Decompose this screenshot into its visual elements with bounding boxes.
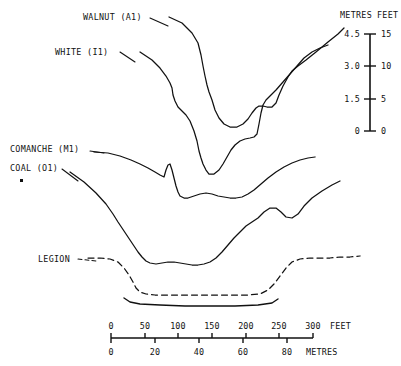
vertical-scale-feet-label-1: 0 (381, 126, 386, 136)
leader-line-walnut (150, 18, 168, 26)
feet-label-100: 100 (170, 321, 186, 331)
metres-unit-label: METRES (306, 347, 337, 357)
feet-label-150: 150 (204, 321, 220, 331)
trench-floor-outline (124, 298, 278, 306)
horizon-line-legion (88, 256, 360, 295)
metres-label-40: 40 (194, 347, 204, 357)
metres-label-80: 80 (282, 347, 292, 357)
cross-section-canvas: WALNUT (A1) WHITE (I1) COMANCHE (M1) COA… (0, 0, 401, 366)
feet-label-50: 50 (140, 321, 150, 331)
cross-section-figure: WALNUT (A1) WHITE (I1) COMANCHE (M1) COA… (0, 0, 401, 366)
feet-label-0: 0 (108, 321, 113, 331)
metres-label-20: 20 (150, 347, 160, 357)
vertical-scale-metres-label-2: 1.5 (344, 94, 360, 104)
coal-marker-dot (20, 179, 23, 182)
leader-line-coal (62, 169, 78, 181)
horizon-label-comanche: COMANCHE (M1) (10, 144, 79, 154)
horizon-label-legion: LEGION (38, 254, 70, 264)
horizon-line-walnut (169, 17, 344, 127)
feet-label-250: 250 (271, 321, 287, 331)
leader-line-white (120, 52, 135, 62)
vertical-scale-feet-label-2: 5 (381, 94, 386, 104)
vertical-scale-feet-label-4: 15 (381, 29, 391, 39)
vertical-scale-feet-label-3: 10 (381, 61, 391, 71)
vertical-scale-feet-header: FEET (377, 10, 398, 20)
horizon-label-white: WHITE (I1) (55, 47, 108, 57)
vertical-scale-metres-label-3: 3.0 (344, 61, 360, 71)
horizon-line-coal (70, 172, 340, 265)
metres-label-0: 0 (108, 347, 113, 357)
leader-line-legion (78, 259, 96, 261)
horizon-line-comanche (94, 152, 315, 198)
vertical-scale-metres-label-1: 0 (355, 126, 360, 136)
horizon-label-coal: COAL (O1) (10, 163, 58, 173)
vertical-scale-metres-label-4: 4.5 (344, 29, 360, 39)
feet-unit-label: FEET (330, 321, 351, 331)
feet-label-200: 200 (238, 321, 254, 331)
feet-label-300: 300 (305, 321, 321, 331)
horizon-label-walnut: WALNUT (A1) (83, 12, 142, 22)
metres-label-60: 60 (238, 347, 248, 357)
vertical-scale-metres-header: METRES (340, 10, 372, 20)
